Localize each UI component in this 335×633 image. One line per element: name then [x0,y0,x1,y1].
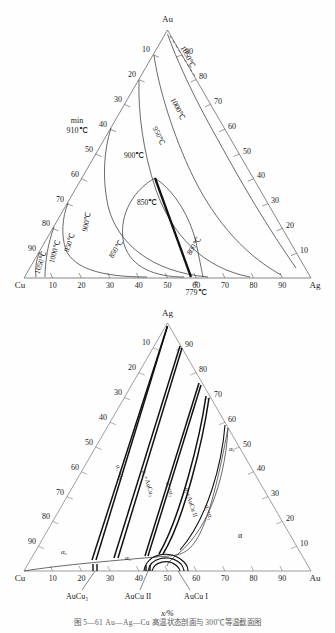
svg-text:50: 50 [243,147,251,156]
isotherm-label-1000-upper: 1000℃ [169,96,188,121]
isotherm-label-850-lower: 850℃ [107,238,125,260]
svg-text:90: 90 [278,574,286,583]
isotherm-label-800: 800℃ [185,235,203,257]
region-alpha2: α₃ [125,554,132,562]
svg-text:40: 40 [257,171,265,180]
svg-text:40: 40 [257,464,265,473]
figure-caption: 图 5—61 Au—Ag—Cu 高温状态剖面与 300℃等温截面图 [0,616,335,627]
svg-text:30: 30 [114,388,122,397]
svg-text:90: 90 [185,340,193,349]
svg-text:10: 10 [142,45,150,54]
svg-text:40: 40 [135,574,143,583]
compound-aucu-ii: AuCu II [125,592,152,601]
isotherm-label-900-lower: 900℃ [80,211,93,233]
svg-text:60: 60 [192,574,200,583]
svg-text:30: 30 [271,489,279,498]
isothermal-section-diagram: Ag Cu Au 10 20 30 40 50 60 70 80 90 [0,288,335,618]
svg-text:910℃: 910℃ [67,126,88,135]
svg-text:80: 80 [199,365,207,374]
svg-text:30: 30 [106,574,114,583]
svg-text:10: 10 [300,539,308,548]
svg-text:20: 20 [286,514,294,523]
svg-text:40: 40 [99,413,107,422]
isotherm-label-950-upper: 950℃ [151,125,168,147]
boundary-alpha-lower [24,428,228,571]
svg-text:60: 60 [228,415,236,424]
svg-text:80: 80 [250,574,258,583]
svg-text:20: 20 [77,574,85,583]
figure-page: Au Cu Ag 10 20 30 40 50 60 70 80 90 [0,0,335,633]
vertex-ag-bottom: Ag [162,308,173,318]
svg-text:80: 80 [42,219,50,228]
vertex-au-top: Au [162,14,173,24]
min-annotation: min 910℃ [67,116,88,135]
isotherm-label-850-upper: 850℃ [137,198,157,207]
svg-text:min: min [71,116,83,125]
svg-text:20: 20 [128,70,136,79]
svg-text:10: 10 [49,574,57,583]
svg-text:70: 70 [214,97,222,106]
ordered-dome-inner [152,562,180,571]
boundary-alpha3-right [96,326,168,560]
svg-text:70: 70 [214,390,222,399]
svg-text:20: 20 [286,221,294,230]
svg-text:20: 20 [128,363,136,372]
right-axis-ticks-bottom: 90 80 70 60 50 40 30 20 10 [185,340,308,548]
isotherm-label-1050-upper: 1050℃ [179,44,198,69]
region-alpha: α [238,531,243,540]
svg-text:30: 30 [271,196,279,205]
svg-text:60: 60 [71,170,79,179]
isotherm-label-950-lower: 950℃ [62,231,77,253]
svg-text:70: 70 [56,195,64,204]
svg-text:70: 70 [221,574,229,583]
svg-text:50: 50 [85,145,93,154]
boundary-aucu3-left [114,346,180,558]
leader-aucu-i [178,571,190,590]
svg-text:50: 50 [85,438,93,447]
svg-text:60: 60 [71,463,79,472]
compound-aucu-i: AuCu I [184,592,208,601]
isotherm-label-900-upper: 900℃ [124,151,144,160]
svg-text:40: 40 [99,120,107,129]
isotherm-850-curve [63,203,147,277]
svg-text:30: 30 [114,95,122,104]
compound-aucu3: AuCu₃ [66,592,88,601]
isotherm-1050-curve [168,34,297,268]
isotherm-1000-curve [154,55,281,275]
bottom-axis-ticks-bottom: 10 20 30 40 50 60 70 80 90 [49,574,287,583]
svg-text:60: 60 [228,122,236,131]
vertex-cu-bottom: Cu [15,573,26,583]
svg-text:70: 70 [56,488,64,497]
boundary-alpha-solvus [167,428,228,566]
eutectic-valley-line [155,178,191,277]
isotherm-800-curve [155,178,203,277]
svg-text:50: 50 [164,574,172,583]
eutectic-symbol: e [194,278,198,287]
svg-text:80: 80 [42,512,50,521]
region-alpha3: α₂ [61,548,68,556]
ordered-dome-mid [148,558,184,571]
svg-text:90: 90 [28,537,36,546]
vertex-au-bottom: Au [310,573,321,583]
svg-text:80: 80 [199,72,207,81]
region-alpha2-aucu2: α₂+AuCu II [183,486,199,517]
svg-text:10: 10 [300,246,308,255]
right-axis-ticks-top: 90 80 70 60 50 40 30 20 10 [185,47,308,255]
svg-text:10: 10 [142,338,150,347]
svg-text:90: 90 [28,244,36,253]
liquidus-projection-diagram: Au Cu Ag 10 20 30 40 50 60 70 80 90 [0,0,335,290]
region-alpha3-aucu3: α₃+AuCu₃ [141,469,156,497]
region-alpha1: α₁ [229,445,235,453]
svg-text:50: 50 [243,440,251,449]
